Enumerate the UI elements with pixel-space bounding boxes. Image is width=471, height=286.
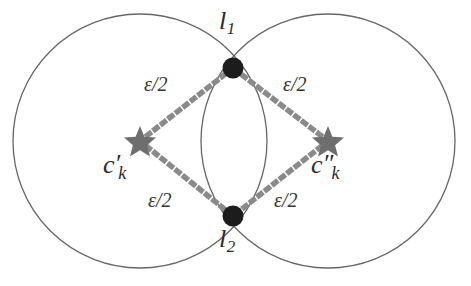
- label-l1: l1: [219, 8, 235, 37]
- label-c-doubleprime-k: c″k: [311, 151, 339, 182]
- label-epsilon-top-right: ε/2: [283, 74, 306, 94]
- figure-container: l1 l2 c′k c″k ε/2 ε/2 ε/2 ε/2: [0, 0, 471, 286]
- label-l1-base: l: [219, 6, 226, 35]
- star-icon-left-center: [124, 126, 156, 157]
- label-c-doubleprime-k-subscript: k: [331, 163, 339, 183]
- dotted-radius-ckdprime-l1: [233, 68, 328, 141]
- label-l2: l2: [219, 226, 235, 255]
- label-l1-subscript: 1: [227, 19, 236, 38]
- label-l2-subscript: 2: [227, 237, 236, 256]
- label-epsilon-bottom-left: ε/2: [148, 190, 171, 210]
- label-l2-base: l: [219, 224, 226, 253]
- label-c-prime-k: c′k: [103, 151, 126, 182]
- diagram-canvas: [0, 0, 471, 286]
- label-c-prime-k-base: c: [103, 150, 115, 179]
- label-c-doubleprime-k-base: c: [311, 150, 323, 179]
- label-epsilon-top-left: ε/2: [144, 74, 167, 94]
- point-dot-l1: [223, 58, 244, 79]
- label-epsilon-bottom-right: ε/2: [274, 190, 297, 210]
- label-c-prime-k-subscript: k: [118, 163, 126, 183]
